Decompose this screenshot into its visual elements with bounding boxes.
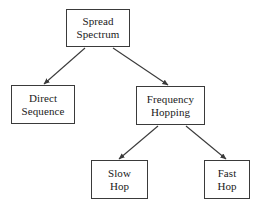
node-frequency-hopping-line1: Frequency — [147, 93, 194, 106]
node-spread-spectrum-line1: Spread — [82, 15, 113, 28]
spread-spectrum-diagram: Spread Spectrum Direct Sequence Frequenc… — [0, 0, 257, 206]
node-spread-spectrum-line2: Spectrum — [77, 28, 120, 41]
node-direct-sequence: Direct Sequence — [11, 85, 75, 124]
node-frequency-hopping: Frequency Hopping — [136, 86, 205, 125]
edge-frequency-to-fast — [186, 126, 226, 159]
node-slow-hop-line2: Hop — [110, 180, 129, 193]
node-fast-hop-line1: Fast — [218, 167, 237, 180]
edge-frequency-to-slow — [119, 126, 158, 159]
edge-spread-to-direct — [44, 48, 85, 84]
node-fast-hop-line2: Hop — [217, 180, 236, 193]
node-frequency-hopping-line2: Hopping — [151, 106, 190, 119]
node-direct-sequence-line2: Sequence — [22, 105, 65, 118]
edge-spread-to-frequency — [113, 48, 168, 85]
node-slow-hop-line1: Slow — [108, 167, 131, 180]
node-direct-sequence-line1: Direct — [29, 92, 57, 105]
node-fast-hop: Fast Hop — [204, 160, 250, 199]
node-spread-spectrum: Spread Spectrum — [66, 9, 130, 47]
node-slow-hop: Slow Hop — [91, 160, 148, 199]
